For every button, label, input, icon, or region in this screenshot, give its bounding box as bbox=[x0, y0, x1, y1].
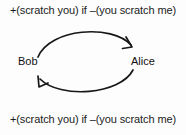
arrow-bob-to-alice bbox=[38, 32, 131, 57]
node-label-bob: Bob bbox=[18, 55, 38, 68]
node-label-alice: Alice bbox=[131, 55, 155, 68]
rule-text-bottom: +(scratch you) if –(you scratch me) bbox=[0, 113, 186, 126]
diagram-canvas: +(scratch you) if –(you scratch me) Bob … bbox=[0, 0, 186, 135]
arrow-alice-to-bob bbox=[40, 70, 133, 92]
